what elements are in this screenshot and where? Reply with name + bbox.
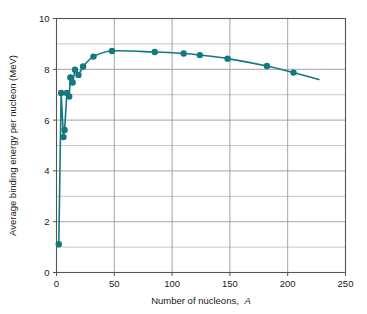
- x-tick-label: 150: [222, 278, 238, 289]
- x-tick-label: 100: [164, 278, 180, 289]
- x-axis-title-text: Number of nucleons,: [151, 295, 239, 306]
- x-tick-label: 50: [109, 278, 120, 289]
- chart-background: [0, 0, 367, 314]
- x-tick-label: 250: [338, 278, 354, 289]
- y-tick-label: 4: [44, 165, 49, 176]
- y-tick-label: 10: [39, 13, 50, 24]
- y-tick-label: 2: [44, 216, 49, 227]
- y-axis-title: Average binding energy per nucleon (MeV): [7, 55, 18, 236]
- x-axis-title-symbol: A: [243, 295, 250, 306]
- y-tick-label: 8: [44, 64, 49, 75]
- binding-energy-chart-figure: 0246810 050100150200250 Average binding …: [0, 0, 367, 314]
- x-tick-label: 200: [280, 278, 296, 289]
- x-tick-label: 0: [54, 278, 59, 289]
- y-tick-label: 6: [44, 115, 49, 126]
- chart-svg: 0246810 050100150200250 Average binding …: [0, 0, 367, 314]
- x-axis-title: Number of nucleons, A: [151, 295, 251, 306]
- y-tick-label: 0: [44, 267, 49, 278]
